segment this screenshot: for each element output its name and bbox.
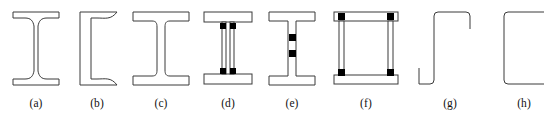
bolt-web-upper bbox=[289, 34, 296, 41]
web-plate-right bbox=[230, 22, 234, 74]
i-beam-web-bolted-drawing bbox=[261, 0, 323, 97]
panel-caption-b: (b) bbox=[67, 97, 127, 110]
lipped-zed-section-drawing bbox=[409, 0, 491, 97]
bolt-corner-top-left bbox=[338, 13, 345, 20]
i-beam-tapered-flange-drawing bbox=[5, 0, 67, 97]
steel-sections-figure: (a) (b) (c) (d) bbox=[0, 0, 560, 121]
section-panel-i-beam-web-bolted: (e) bbox=[261, 0, 323, 121]
box-right-web bbox=[388, 21, 393, 75]
section-panel-built-up-plate-girder: (d) bbox=[195, 0, 261, 121]
web-plate-left bbox=[222, 22, 226, 74]
box-left-web bbox=[339, 21, 344, 75]
panel-caption-d: (d) bbox=[195, 97, 261, 110]
panel-caption-h: (h) bbox=[491, 97, 557, 110]
bolt-web-lower bbox=[289, 50, 296, 57]
wide-flange-i-beam-drawing bbox=[127, 0, 195, 97]
channel-tapered-flange-drawing bbox=[67, 0, 127, 97]
bottom-flange-plate bbox=[204, 74, 252, 84]
panel-caption-g: (g) bbox=[409, 97, 491, 110]
box-bottom-flange bbox=[334, 75, 398, 84]
built-up-plate-girder-drawing bbox=[195, 0, 261, 97]
panel-caption-a: (a) bbox=[5, 97, 67, 110]
section-panel-i-beam-tapered-flange: (a) bbox=[5, 0, 67, 121]
panel-caption-f: (f) bbox=[323, 97, 409, 110]
box-girder-drawing bbox=[323, 0, 409, 97]
bolt-corner-bottom-right bbox=[387, 69, 394, 76]
bolt-top-left bbox=[220, 23, 226, 29]
section-panel-cold-formed-channel: (h) bbox=[491, 0, 557, 121]
section-panel-lipped-zed-section: (g) bbox=[409, 0, 491, 121]
bolt-corner-bottom-left bbox=[338, 69, 345, 76]
panel-caption-e: (e) bbox=[261, 97, 323, 110]
section-panel-channel-tapered-flange: (b) bbox=[67, 0, 127, 121]
section-panel-wide-flange-i-beam: (c) bbox=[127, 0, 195, 121]
cold-formed-channel-drawing bbox=[491, 0, 557, 97]
section-panel-box-girder: (f) bbox=[323, 0, 409, 121]
panel-caption-c: (c) bbox=[127, 97, 195, 110]
bolt-top-right bbox=[230, 23, 236, 29]
top-flange-plate bbox=[204, 12, 252, 22]
bolt-corner-top-right bbox=[387, 13, 394, 20]
bolt-bottom-right bbox=[230, 68, 236, 74]
bolt-bottom-left bbox=[220, 68, 226, 74]
